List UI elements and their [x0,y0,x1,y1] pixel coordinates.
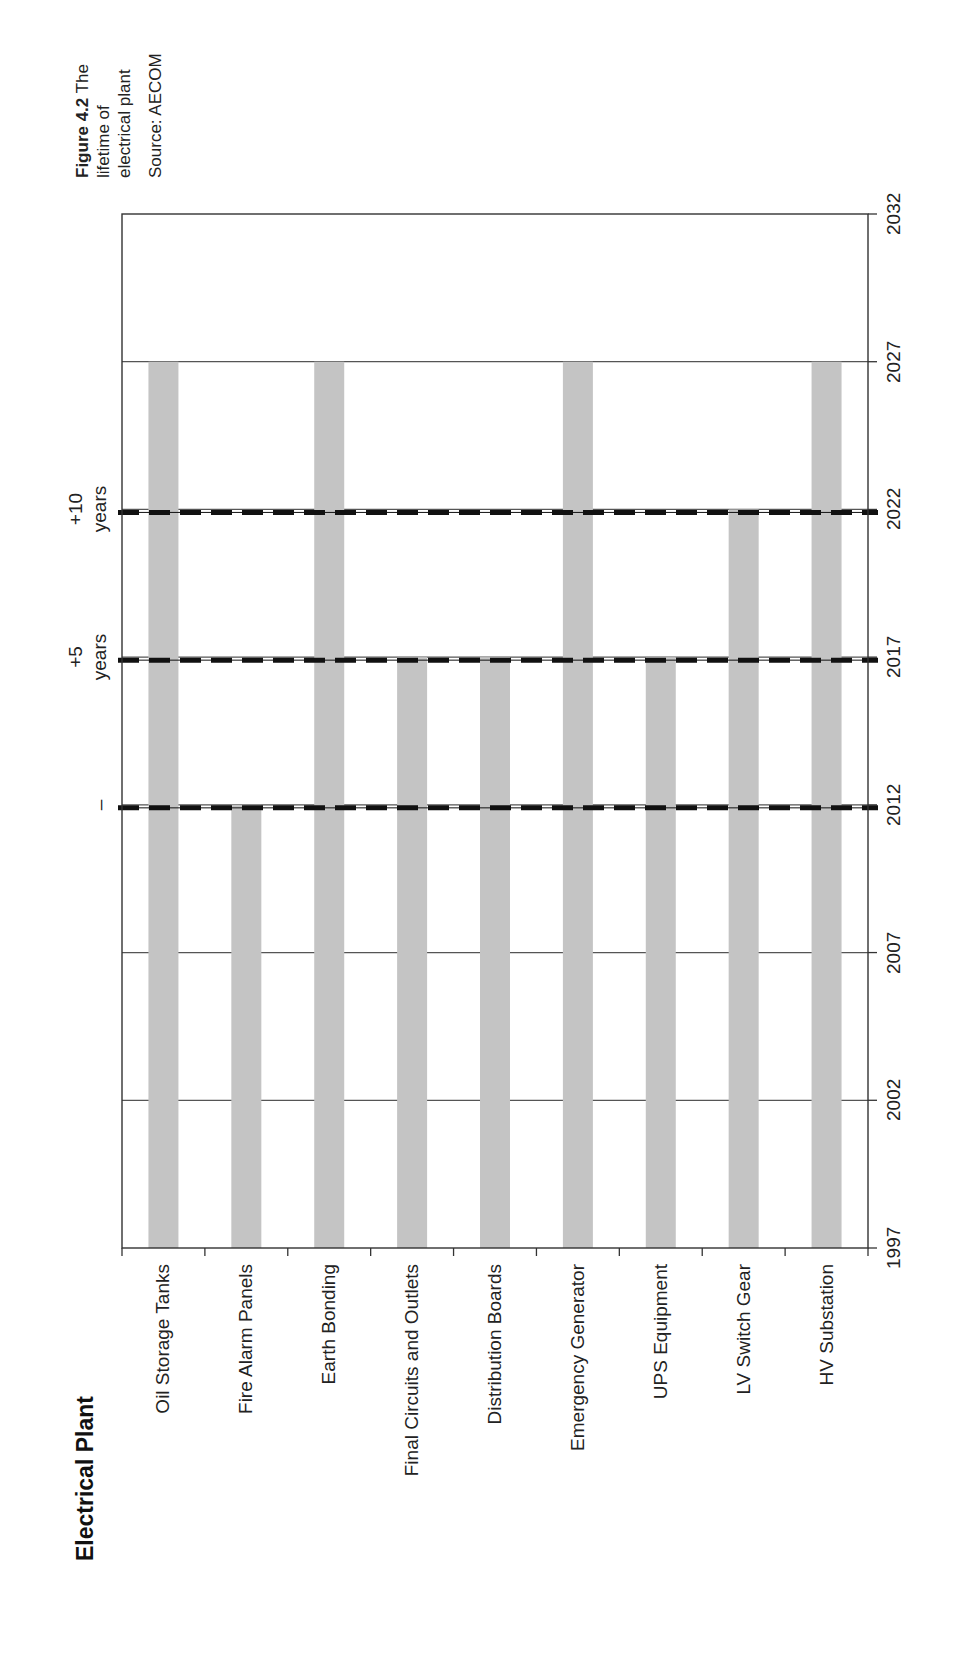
year-label-2007: 2007 [883,931,905,973]
annotation-line-1: +10 [64,479,88,539]
category-label: LV Switch Gear [733,1264,755,1564]
annotation-line-1: – [88,775,112,835]
bar-earth-bonding [314,362,344,1248]
category-label: Earth Bonding [318,1264,340,1564]
bar-emergency-generator [563,362,593,1248]
year-label-2022: 2022 [883,488,905,530]
bar-distribution-boards [480,657,510,1248]
annotation-line-2: years [88,627,112,687]
annotation-line-1: +5 [64,627,88,687]
annotation-2017: +5years [64,627,112,687]
category-label: UPS Equipment [650,1264,672,1564]
year-label-2002: 2002 [883,1079,905,1121]
bar-final-circuits-and-outlets [397,657,427,1248]
category-label: HV Substation [816,1264,838,1564]
annotation-line-2: years [88,479,112,539]
year-label-1997: 1997 [883,1227,905,1269]
year-label-2012: 2012 [883,784,905,826]
category-label: Fire Alarm Panels [235,1264,257,1564]
annotation-2022: +10years [64,479,112,539]
category-label: Emergency Generator [567,1264,589,1564]
category-label: Final Circuits and Outlets [401,1264,423,1564]
category-label: Distribution Boards [484,1264,506,1564]
bar-hv-substation [812,362,842,1248]
bar-oil-storage-tanks [148,362,178,1248]
year-label-2027: 2027 [883,340,905,382]
bar-fire-alarm-panels [231,805,261,1248]
lifetime-bars [148,362,841,1248]
year-label-2017: 2017 [883,636,905,678]
annotation-2012: – [88,775,112,835]
year-label-2032: 2032 [883,193,905,235]
bar-ups-equipment [646,657,676,1248]
chart-title: Electrical Plant [72,1396,99,1561]
bar-lv-switch-gear [729,509,759,1248]
category-label: Oil Storage Tanks [152,1264,174,1564]
